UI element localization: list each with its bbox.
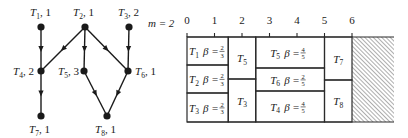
task-label: T1 [189,45,199,60]
node-T7 [37,112,44,119]
node-T4 [37,67,44,74]
arrow-icon [126,46,131,52]
task-label: T3, 2 [118,6,139,21]
precedence-graph: T1, 1T2, 1T3, 2T4, 2T5, 3T6, 1T7, 1T8, 1 [13,6,156,138]
fraction-numerator: 4 [302,46,306,53]
fraction-denominator: 5 [302,80,305,87]
arrow-icon [38,91,43,97]
arrow-icon [38,46,43,52]
task-label: T4, 2 [13,65,34,80]
axis-tick-label: 0 [184,14,190,26]
fraction-numerator: 2 [220,72,223,79]
beta-label: β = [202,102,219,114]
task-label: T7 [333,53,343,68]
axis-tick-label: 6 [349,14,355,26]
fraction-denominator: 3 [220,80,223,87]
beta-label: β = [283,47,300,59]
task-label: T8, 1 [95,123,116,138]
node-T2 [81,23,88,30]
idle-region [352,37,394,122]
fraction-numerator: 2 [220,44,223,51]
fraction-numerator: 2 [220,101,223,108]
task-label: T2 [189,73,199,88]
node-T1 [37,23,44,30]
task-label: T5, 3 [58,65,79,80]
task-label: T5 [237,52,247,67]
node-T3 [125,23,132,30]
axis-tick-label: 5 [322,14,328,26]
axis-tick-label: 2 [239,14,245,26]
node-T5 [80,67,87,74]
node-T8 [103,112,110,119]
fraction-denominator: 5 [302,53,305,60]
node-T6 [124,67,131,74]
task-label: T6 [270,74,280,89]
beta-label: β = [283,74,300,86]
axis-tick-label: 3 [267,14,273,26]
task-label: T8 [333,95,343,110]
fraction-numerator: 4 [302,100,306,107]
task-label: T5 [270,47,280,62]
axis-tick-label: 1 [212,14,218,26]
task-label: T2, 1 [73,6,94,21]
arrow-icon [82,46,87,52]
task-label: T6, 1 [135,65,156,80]
fraction-denominator: 3 [220,52,223,59]
beta-label: β = [202,73,219,85]
beta-label: β = [202,45,219,57]
fraction-denominator: 3 [220,108,223,115]
fraction-numerator: 2 [302,73,305,80]
task-graph-and-schedule-diagram: T1, 1T2, 1T3, 2T4, 2T5, 3T6, 1T7, 1T8, 1… [0,0,408,138]
task-label: T1, 1 [30,6,51,21]
beta-label: β = [283,101,300,113]
axis-tick-label: 4 [294,14,300,26]
task-label: T7, 1 [29,123,50,138]
arrow-icon [114,90,121,98]
schedule-chart: m = 20123456T1β =23T2β =23T3β =23T5T3T5β… [148,14,394,122]
task-label: T4 [270,101,280,116]
task-label: T3 [189,102,199,117]
processor-count-label: m = 2 [148,17,175,29]
arrow-icon [92,90,99,98]
task-label: T3 [237,95,247,110]
fraction-denominator: 5 [302,107,305,114]
